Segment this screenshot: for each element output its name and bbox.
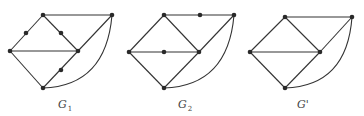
graph-label: G' — [297, 98, 309, 111]
subdivision-vertex — [24, 31, 29, 36]
vertex — [41, 13, 46, 18]
vertex — [197, 50, 202, 55]
vertex — [162, 13, 167, 18]
vertex — [283, 15, 288, 20]
edge — [164, 15, 199, 52]
vertex — [248, 50, 253, 55]
graph-g1: G1 — [8, 13, 115, 113]
graph-label: G2 — [178, 98, 192, 113]
edge — [129, 15, 164, 52]
edge — [285, 17, 320, 52]
graph-label: G1 — [58, 98, 72, 113]
edge — [250, 17, 285, 52]
vertex — [127, 50, 132, 55]
edge — [320, 17, 352, 52]
edge — [78, 15, 112, 51]
edge — [285, 52, 320, 88]
vertex — [232, 13, 237, 18]
vertex — [162, 86, 167, 91]
vertex — [283, 86, 288, 91]
edge — [250, 52, 285, 88]
edge — [129, 52, 164, 88]
edge — [199, 15, 234, 52]
subdivision-vertex — [59, 31, 64, 36]
vertex — [8, 49, 13, 54]
graph-diagram: G1G2G' — [0, 0, 364, 116]
subdivision-vertex — [59, 68, 64, 73]
edge — [10, 51, 43, 88]
graph-gprime: G' — [248, 15, 355, 111]
subdivision-vertex — [162, 50, 167, 55]
vertex — [41, 86, 46, 91]
vertex — [350, 15, 355, 20]
graph-g2: G2 — [127, 13, 237, 113]
vertex — [76, 49, 81, 54]
vertex — [318, 50, 323, 55]
subdivision-vertex — [198, 13, 203, 18]
vertex — [110, 13, 115, 18]
